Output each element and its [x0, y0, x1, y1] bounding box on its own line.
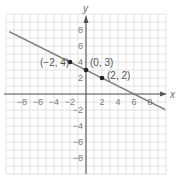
y-tick-label: −8 [73, 153, 83, 163]
y-tick-label: −4 [73, 121, 83, 131]
point-label: (−2, 4) [40, 57, 69, 68]
x-tick-label: 4 [115, 97, 120, 107]
data-point [100, 76, 105, 81]
x-tick-label: 6 [131, 97, 136, 107]
y-tick-label: −6 [73, 137, 83, 147]
y-tick-label: −2 [73, 105, 83, 115]
point-label: (2, 2) [107, 70, 130, 81]
y-tick-label: 8 [78, 25, 83, 35]
x-tick-label: −8 [17, 97, 27, 107]
x-tick-label: 2 [99, 97, 104, 107]
y-tick-label: 6 [78, 41, 83, 51]
point-label: (0, 3) [90, 57, 113, 68]
y-axis-label: y [82, 3, 89, 14]
x-tick-label: −4 [49, 97, 59, 107]
x-tick-label: −6 [33, 97, 43, 107]
data-point [84, 68, 89, 73]
y-axis-arrow-icon [84, 15, 89, 23]
coordinate-plane: xy−8−6−4−224688642−2−4−6−8(−2, 4)(0, 3)(… [0, 0, 177, 175]
y-tick-label: 2 [78, 73, 83, 83]
x-axis-label: x [169, 89, 176, 100]
